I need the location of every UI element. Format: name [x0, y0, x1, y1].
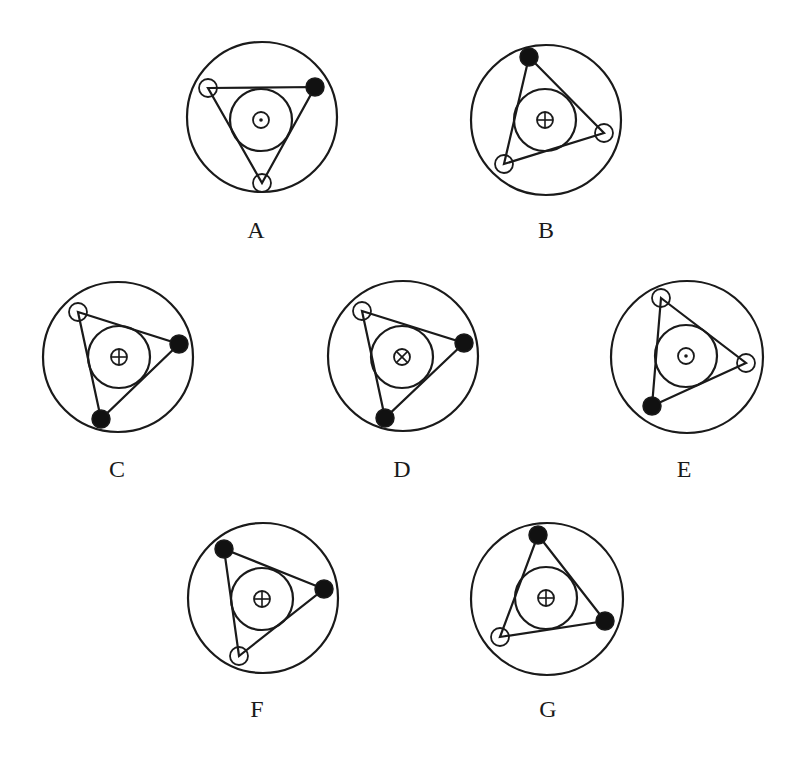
figure-label-d: D: [393, 457, 410, 481]
open-vertex-icon: [595, 124, 613, 142]
figure-label-f: F: [250, 697, 263, 721]
figure-c: [43, 282, 193, 432]
figure-b: [471, 45, 621, 195]
triangle: [224, 549, 324, 656]
open-vertex-icon: [495, 155, 513, 173]
open-vertex-icon: [491, 628, 509, 646]
filled-vertex-icon: [92, 410, 110, 428]
dot-symbol-icon: [678, 348, 694, 364]
triangle: [504, 57, 604, 164]
outer-circle: [188, 523, 338, 673]
cross-symbol-icon: [394, 349, 410, 365]
filled-vertex-icon: [170, 335, 188, 353]
figure-e: [611, 281, 763, 433]
open-vertex-icon: [199, 79, 217, 97]
filled-vertex-icon: [529, 526, 547, 544]
open-vertex-icon: [230, 647, 248, 665]
figure-d: [328, 281, 478, 431]
triangle: [208, 87, 315, 183]
figure-f: [188, 523, 338, 673]
plus-symbol-icon: [537, 112, 553, 128]
figure-label-c: C: [109, 457, 125, 481]
triangle: [362, 311, 464, 418]
open-vertex-icon: [737, 354, 755, 372]
dot-symbol-icon: [253, 112, 269, 128]
triangle: [500, 535, 605, 637]
figure-a: [187, 42, 337, 192]
figure-label-b: B: [538, 218, 554, 242]
filled-vertex-icon: [215, 540, 233, 558]
figure-label-e: E: [677, 457, 692, 481]
filled-vertex-icon: [596, 612, 614, 630]
triangle: [78, 312, 179, 419]
open-vertex-icon: [253, 174, 271, 192]
plus-symbol-icon: [111, 349, 127, 365]
plus-symbol-icon: [254, 591, 270, 607]
open-vertex-icon: [353, 302, 371, 320]
filled-vertex-icon: [315, 580, 333, 598]
figure-g: [471, 523, 623, 675]
diagram-canvas: [0, 0, 802, 760]
filled-vertex-icon: [455, 334, 473, 352]
open-vertex-icon: [69, 303, 87, 321]
figure-label-g: G: [539, 697, 556, 721]
open-vertex-icon: [652, 289, 670, 307]
filled-vertex-icon: [643, 397, 661, 415]
filled-vertex-icon: [306, 78, 324, 96]
plus-symbol-icon: [538, 590, 554, 606]
filled-vertex-icon: [520, 48, 538, 66]
triangle: [652, 298, 746, 406]
filled-vertex-icon: [376, 409, 394, 427]
figure-label-a: A: [247, 218, 264, 242]
outer-circle: [187, 42, 337, 192]
